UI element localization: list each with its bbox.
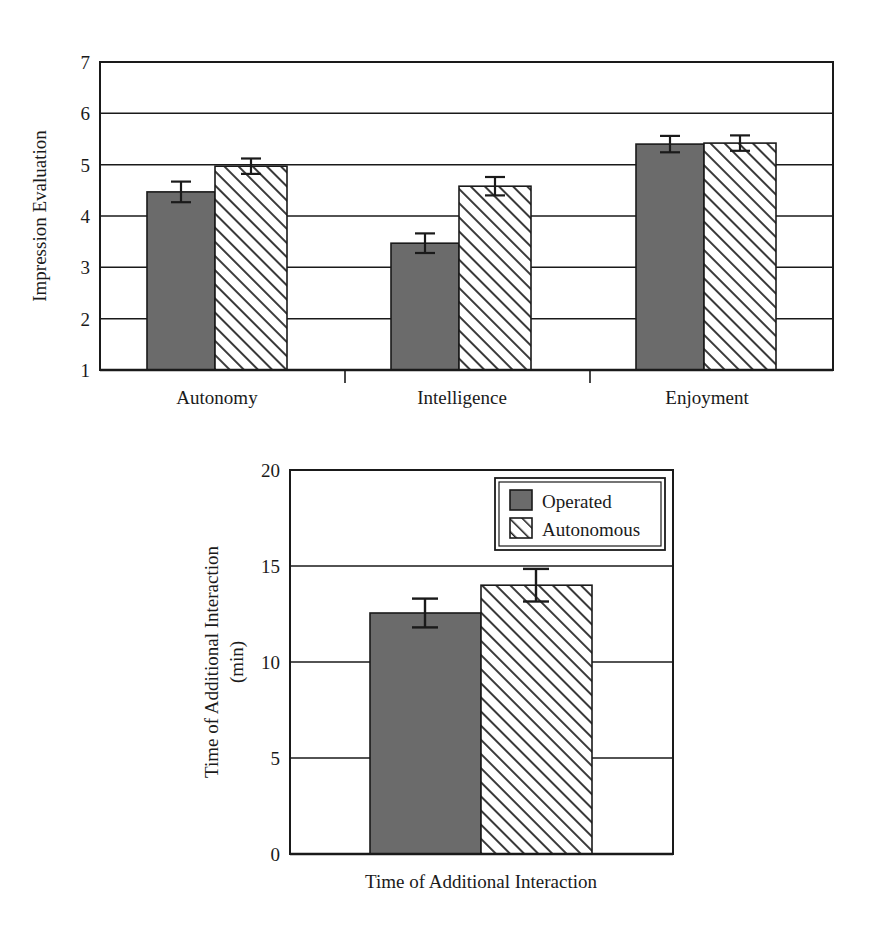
- ytick-1: 1: [81, 360, 91, 381]
- ytick-5: 5: [81, 155, 91, 176]
- ytick-20: 20: [261, 460, 280, 481]
- bar-operated-intelligence: [391, 243, 459, 370]
- y-axis-ticks-chart2: 20 15 10 5 0: [261, 460, 280, 865]
- ytick-2: 2: [81, 309, 91, 330]
- bar-operated-enjoyment: [636, 144, 704, 370]
- chart-time-of-additional-interaction: 20 15 10 5 0 Time of Additional Interact…: [0, 430, 875, 927]
- ytick-4: 4: [81, 206, 91, 227]
- cat-label-enjoyment: Enjoyment: [665, 387, 749, 408]
- ytick-0: 0: [271, 844, 281, 865]
- legend-label-autonomous: Autonomous: [542, 519, 640, 540]
- x-axis-group-ticks: [345, 370, 590, 383]
- ytick-3: 3: [81, 257, 91, 278]
- cat-label-autonomy: Autonomy: [176, 387, 258, 408]
- ytick-10: 10: [261, 652, 280, 673]
- legend-swatch-autonomous: [510, 518, 532, 538]
- chart-impression-evaluation: 7 6 5 4 3 2 1 Impression Evaluation: [0, 0, 875, 430]
- y-axis-ticks-chart1: 7 6 5 4 3 2 1: [81, 52, 91, 381]
- y-axis-title-chart1: Impression Evaluation: [29, 130, 50, 302]
- x-axis-title-chart2: Time of Additional Interaction: [365, 871, 598, 892]
- legend-swatch-operated: [510, 490, 532, 510]
- y-axis-title-chart2-line2: (min): [226, 641, 248, 683]
- legend: Operated Autonomous: [495, 478, 665, 550]
- ytick-7: 7: [81, 52, 91, 73]
- bar-operated-time: [370, 613, 481, 854]
- legend-label-operated: Operated: [542, 491, 612, 512]
- cat-label-intelligence: Intelligence: [417, 387, 507, 408]
- bar-autonomous-enjoyment: [704, 143, 776, 370]
- bar-autonomous-autonomy: [215, 166, 287, 370]
- y-axis-title-chart2-line1: Time of Additional Interaction: [201, 545, 222, 778]
- bar-operated-autonomy: [147, 192, 215, 370]
- bar-autonomous-intelligence: [459, 186, 531, 370]
- ytick-5: 5: [271, 748, 281, 769]
- ytick-6: 6: [81, 103, 91, 124]
- figure-container: 7 6 5 4 3 2 1 Impression Evaluation: [0, 0, 875, 927]
- bar-autonomous-time: [481, 585, 592, 854]
- ytick-15: 15: [261, 556, 280, 577]
